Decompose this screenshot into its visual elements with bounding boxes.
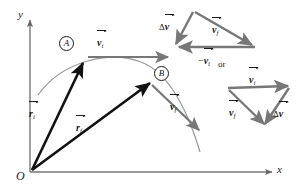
r-final-label: rf [76, 118, 82, 135]
triangle-bottom-delta-v-label: Δ v [273, 104, 283, 120]
projectile-vector-figure: y x O A B ri rf vi vf Δ v [0, 0, 296, 190]
vector-arrow-icon [29, 101, 38, 102]
vector-arrow-icon [76, 115, 85, 116]
r-initial-vector [32, 63, 83, 170]
vector-arrow-icon [229, 100, 238, 101]
figure-canvas [0, 0, 296, 190]
triangle-top-neg-v-initial-label: − vi [198, 51, 210, 68]
vector-arrow-icon [170, 94, 179, 95]
vector-arrow-icon [279, 101, 288, 102]
triangle-top-delta-v-side [176, 12, 193, 44]
triangle-bottom-v-initial-label: vi [249, 70, 255, 87]
vector-arrow-icon [165, 14, 174, 15]
r-final-vector [32, 83, 150, 170]
or-text: or [218, 60, 226, 69]
vector-arrow-icon [212, 17, 221, 18]
vector-arrow-icon [249, 67, 258, 68]
triangle-top-v-final-label: vf [212, 20, 218, 37]
triangle-bottom-vi-side [228, 86, 288, 88]
point-a-marker: A [59, 36, 74, 51]
point-b-marker: B [154, 66, 169, 81]
triangle-top-delta-v-label: Δ v [159, 17, 169, 33]
triangle-top-vf-side [195, 12, 252, 45]
y-axis-label: y [18, 9, 23, 20]
origin-label: O [16, 170, 25, 182]
vector-arrow-icon [97, 30, 106, 31]
x-axis-label: x [277, 164, 282, 175]
triangle-bottom-v-final-label: vf [229, 103, 235, 120]
v-initial-label: vi [97, 33, 103, 50]
vector-arrow-icon [204, 48, 213, 49]
r-initial-label: ri [29, 104, 35, 121]
v-final-label: vf [170, 97, 176, 114]
